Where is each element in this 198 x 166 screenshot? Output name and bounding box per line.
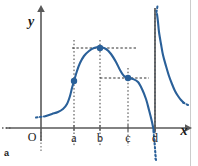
curve-right-branch (157, 14, 184, 103)
curve-tail-right-up (157, 6, 158, 12)
function-graph-figure: yxOabcd a (0, 0, 198, 166)
y-axis-label: y (26, 14, 35, 29)
origin-label: O (28, 130, 37, 144)
x-tick-label-d: d (152, 131, 158, 145)
x-axis-label: x (180, 123, 188, 138)
marked-point-a[interactable] (71, 78, 77, 84)
curve-tail-right-down (183, 103, 190, 107)
x-tick-label-a: a (71, 131, 77, 145)
curve-tail-left (36, 116, 47, 118)
function-plot-svg: yxOabcd (0, 0, 198, 166)
x-tick-label-b: b (97, 131, 103, 145)
panel-label: a (4, 148, 9, 158)
marked-point-c[interactable] (125, 75, 131, 81)
x-tick-label-c: c (125, 131, 130, 145)
y-axis-arrow-icon (37, 5, 45, 12)
marked-point-b[interactable] (97, 45, 103, 51)
